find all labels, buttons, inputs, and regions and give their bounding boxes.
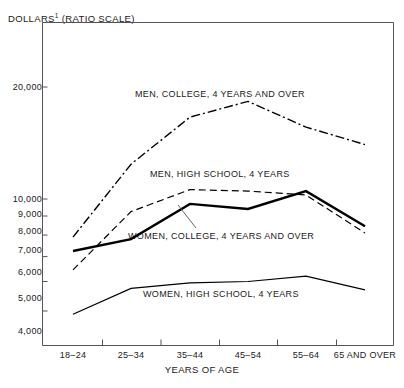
- line-chart: DOLLARS1 (RATIO SCALE) YEARS OF AGE 20,0…: [0, 0, 404, 388]
- series-line-3: [73, 276, 365, 314]
- series-line-0: [73, 101, 365, 237]
- plot-frame: [43, 23, 394, 346]
- axis-ticks: [43, 87, 337, 346]
- leader-line-women-college: [178, 205, 196, 228]
- chart-canvas: [0, 0, 404, 388]
- series-line-1: [73, 190, 365, 270]
- series-lines: [73, 101, 365, 314]
- series-line-2: [73, 191, 365, 251]
